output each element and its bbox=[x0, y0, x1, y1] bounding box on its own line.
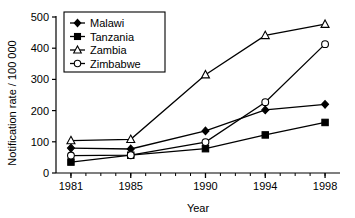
data-point-filled-square bbox=[68, 159, 74, 165]
legend-label: Zambia bbox=[90, 44, 128, 56]
legend-label: Malawi bbox=[90, 17, 124, 29]
line-chart: Notification rate / 100 000 Year 0100200… bbox=[0, 0, 355, 218]
legend-label: Tanzania bbox=[90, 31, 135, 43]
data-point-filled-square bbox=[322, 119, 328, 125]
data-point-filled-square bbox=[202, 145, 208, 151]
y-tick-label: 400 bbox=[31, 42, 49, 54]
y-tick-label: 100 bbox=[31, 136, 49, 148]
x-tick-label: 1990 bbox=[193, 180, 217, 192]
x-tick-label: 1981 bbox=[59, 180, 83, 192]
legend-label: Zimbabwe bbox=[90, 58, 141, 70]
data-point-open-circle bbox=[127, 152, 134, 159]
x-tick-label: 1985 bbox=[118, 180, 142, 192]
y-tick-label: 300 bbox=[31, 73, 49, 85]
chart-container: Notification rate / 100 000 Year 0100200… bbox=[0, 0, 355, 218]
y-tick-label: 200 bbox=[31, 105, 49, 117]
y-tick-label: 500 bbox=[31, 11, 49, 23]
data-point-filled-square bbox=[75, 34, 81, 40]
x-tick-label: 1994 bbox=[253, 180, 277, 192]
data-point-filled-square bbox=[262, 132, 268, 138]
y-axis-label: Notification rate / 100 000 bbox=[6, 40, 18, 165]
data-point-open-circle bbox=[202, 139, 209, 146]
data-point-open-circle bbox=[74, 60, 80, 66]
chart-background bbox=[0, 0, 355, 218]
data-point-open-circle bbox=[68, 152, 75, 159]
y-tick-label: 0 bbox=[43, 167, 49, 179]
data-point-open-circle bbox=[322, 41, 329, 48]
x-tick-label: 1998 bbox=[313, 180, 337, 192]
x-axis-label: Year bbox=[187, 202, 210, 214]
data-point-open-circle bbox=[262, 99, 269, 106]
chart-legend: MalawiTanzaniaZambiaZimbabwe bbox=[64, 12, 165, 72]
